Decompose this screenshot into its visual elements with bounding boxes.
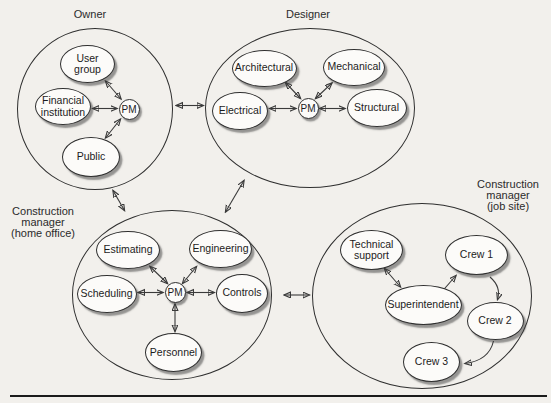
node-superintendent: Superintendent [385,285,462,325]
node-technical-support: Technical support [340,230,403,270]
cluster-label-line: (job site) [468,201,548,212]
node-label-line: Crew 1 [460,249,493,261]
node-label-line: Estimating [103,244,152,256]
node-scheduling: Scheduling [77,275,137,313]
pm-circle-owner: PM [119,99,140,120]
edge-estimating-pm [150,267,168,284]
node-label-line: Controls [222,287,261,299]
node-label-line: Electrical [219,105,262,117]
node-label-line: Scheduling [81,288,133,300]
edge-user-group-pm [106,81,122,99]
edge-technical-support-superintendent [385,269,401,288]
pm-label: PM [301,103,316,114]
job-site-cluster-label: Construction manager (job site) [468,179,548,212]
node-financial-institution: Financial institution [35,88,91,125]
node-label-line: Superintendent [387,299,458,311]
node-label-line: Mechanical [327,61,380,73]
designer-cluster-label: Designer [268,9,348,20]
pm-circle-home-office: PM [165,282,186,303]
node-user-group: User group [60,45,115,83]
node-electrical: Electrical [212,92,268,130]
node-structural: Structural [347,89,407,127]
node-crew-1: Crew 1 [445,235,508,275]
node-label-line: Financial [42,95,84,107]
node-controls: Controls [216,274,268,313]
node-label-line: Crew 2 [478,315,511,327]
edge-crew2-crew3 [465,341,494,364]
edge-crew1-crew2 [490,277,499,300]
node-architectural: Architectural [232,50,297,87]
cluster-label-line: Owner [50,9,130,20]
node-label-line: institution [41,107,85,119]
node-crew-2: Crew 2 [467,302,524,340]
node-label-line: Personnel [150,347,197,359]
edge-public-pm [106,119,121,138]
pm-circle-designer: PM [298,98,319,119]
edge-designer-home-office [226,181,245,213]
node-crew-3: Crew 3 [403,342,460,382]
diagram-canvas: Owner Designer Construction manager (hom… [0,0,551,403]
node-label-line: Crew 3 [415,356,448,368]
node-label-line: group [74,64,101,76]
edge-mechanical-pm [316,83,333,99]
node-mechanical: Mechanical [323,49,385,86]
edge-architectural-pm [286,83,301,99]
owner-cluster-label: Owner [50,9,130,20]
home-office-cluster-label: Construction manager (home office) [3,206,83,239]
node-personnel: Personnel [145,333,202,372]
cluster-label-line: (home office) [3,228,83,239]
edge-owner-home-office [113,191,125,211]
node-label-line: Structural [354,102,399,114]
bottom-rule [10,395,547,397]
node-engineering: Engineering [189,230,252,268]
node-label-line: Public [77,151,106,163]
pm-label: PM [168,287,183,298]
pm-label: PM [122,104,137,115]
cluster-label-line: Designer [268,9,348,20]
node-estimating: Estimating [96,231,160,269]
node-label-line: Architectural [235,62,293,74]
node-label-line: Engineering [192,243,248,255]
node-label-line: support [354,250,389,262]
edge-engineering-pm [183,267,197,284]
node-public: Public [62,137,120,177]
